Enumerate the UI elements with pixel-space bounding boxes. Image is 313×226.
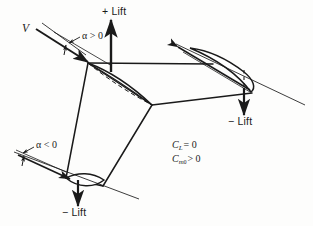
moment-coefficient-equation: Cm0> 0 [172, 154, 201, 166]
cl-symbol: C [172, 139, 179, 150]
negative-lift-label-right: − Lift [228, 116, 252, 127]
velocity-vector-arrow [36, 29, 88, 62]
root-chord-reference-line [42, 23, 86, 55]
negative-lift-label-left: − Lift [62, 207, 86, 218]
right-tip-chord-line [176, 44, 305, 105]
left-tip-airfoil-section [14, 147, 139, 199]
velocity-label: V [22, 23, 29, 35]
right-panel-trailing-edge [152, 93, 252, 105]
left-panel-trailing-edge [103, 105, 152, 186]
lift-vectors [78, 20, 244, 206]
lift-coefficient-equation: CL= 0 [172, 140, 197, 152]
alpha-negative-label: α < 0 [36, 140, 57, 150]
cl-subscript: L [179, 144, 183, 152]
cl-relation: = 0 [183, 139, 197, 150]
left-tip-chord-line [14, 152, 139, 199]
alpha-positive-label: α > 0 [82, 31, 103, 41]
root-alpha-leader [69, 37, 80, 43]
diagram-canvas [0, 0, 313, 226]
positive-lift-label: + Lift [102, 6, 126, 17]
cm-symbol: C [172, 153, 179, 164]
left-panel-leading-edge [66, 63, 88, 178]
left-tip-flow-arrow [18, 155, 70, 179]
wing-planform [66, 63, 252, 186]
left-alpha-leader [23, 147, 34, 153]
right-tip-airfoil-section [176, 44, 305, 105]
aerodynamics-figure: V + Lift − Lift − Lift α > 0 α < 0 CL= 0… [0, 0, 313, 226]
cm-relation: > 0 [186, 153, 200, 164]
